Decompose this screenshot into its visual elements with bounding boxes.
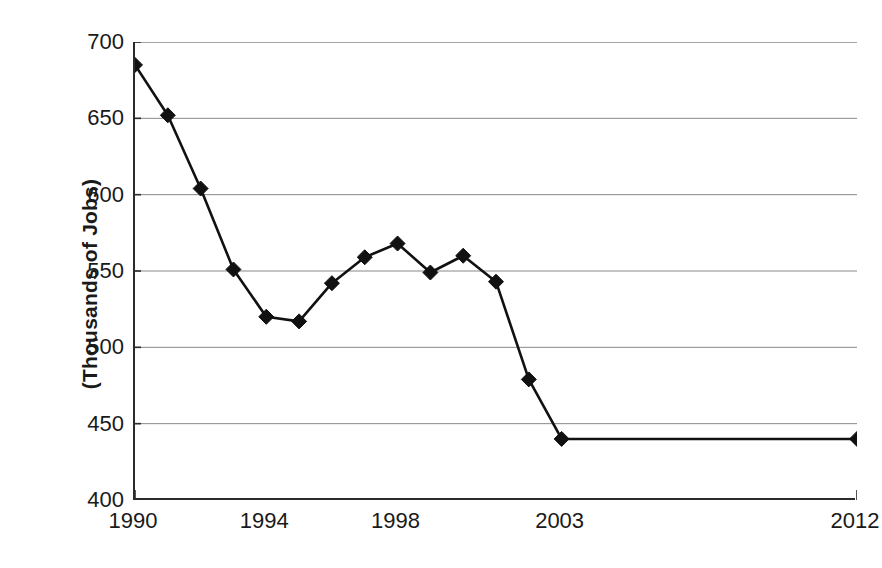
x-tick-label: 1998 bbox=[336, 509, 456, 533]
x-tick-label: 2003 bbox=[500, 509, 620, 533]
x-axis-tick-labels: 19901994199820032012 bbox=[0, 0, 882, 568]
x-tick-label: 1990 bbox=[73, 509, 193, 533]
line-chart: (Thousands of Jobs) 70065060055050045040… bbox=[0, 0, 882, 568]
x-tick-label: 2012 bbox=[795, 509, 882, 533]
x-tick-label: 1994 bbox=[204, 509, 324, 533]
